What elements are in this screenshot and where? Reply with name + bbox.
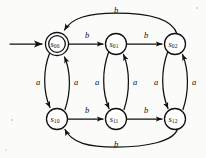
transition-s10-s00: a — [65, 57, 79, 110]
edge-label-s10-s11: b — [85, 105, 89, 115]
transition-s00-s10: a — [36, 54, 50, 108]
edge-label-s02-s12: a — [154, 77, 158, 87]
edge-label-s10-s00: a — [74, 77, 78, 87]
scan-speck — [5, 149, 7, 151]
state-node-s12[interactable]: s12 — [165, 109, 186, 130]
edge-label-s11-s01: a — [133, 77, 137, 87]
edge-label-s00-s10: a — [36, 77, 40, 87]
fsm-diagram: b b b b b b a — [0, 0, 206, 158]
transition-s11-s01: a — [124, 55, 138, 110]
edge-label-s02-s00: b — [114, 5, 118, 15]
state-node-s01[interactable]: s01 — [106, 34, 127, 55]
transition-s02-s12: a — [154, 53, 168, 109]
fsm-canvas: b b b b b b a — [0, 0, 206, 158]
transition-s12-s10: b — [65, 128, 178, 149]
edge-label-s01-s02: b — [144, 30, 148, 40]
transition-s01-s11: a — [95, 53, 109, 109]
transition-s02-s00: b — [65, 5, 178, 34]
transition-s11-s12: b — [127, 105, 163, 119]
state-node-s10[interactable]: s10 — [47, 109, 68, 130]
edge-label-s00-s01: b — [85, 30, 89, 40]
edge-label-s12-s02: a — [192, 77, 196, 87]
transition-s00-s01: b — [69, 30, 104, 44]
state-node-s00[interactable]: s00 — [46, 33, 69, 56]
edge-label-s11-s12: b — [144, 105, 148, 115]
transition-s12-s02: a — [183, 55, 197, 110]
edge-label-s01-s11: a — [95, 77, 99, 87]
scan-speck — [11, 119, 13, 121]
edge-label-s12-s10: b — [114, 139, 118, 149]
state-node-s02[interactable]: s02 — [165, 34, 186, 55]
scan-speck — [196, 7, 198, 9]
transition-s10-s11: b — [68, 105, 104, 119]
state-node-s11[interactable]: s11 — [106, 109, 127, 130]
transition-s01-s02: b — [127, 30, 163, 44]
